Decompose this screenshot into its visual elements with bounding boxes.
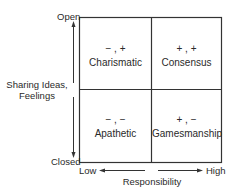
y-axis-title-line2: Feelings [3,90,71,101]
quadrant-symbol: + , + [152,43,221,54]
quadrant-symbol: + , − [152,114,221,125]
quadrant-top-right: + , + Consensus [152,43,221,69]
y-axis-top-label: Open [57,11,80,22]
x-axis-right-label: High [206,165,226,176]
quadrant-bottom-right: + , − Gamesmanship [152,114,221,140]
quadrant-label: Apathetic [80,128,151,140]
y-axis-title-line1: Sharing Ideas, [3,79,71,90]
quadrant-label: Charismatic [80,57,151,69]
quadrant-label: Consensus [152,57,221,69]
quadrant-bottom-left: − , − Apathetic [80,114,151,140]
x-axis-left-label: Low [79,165,96,176]
left-arrow-icon [99,169,105,173]
x-axis-title: Responsibility [120,176,184,187]
quadrant-top-left: − , + Charismatic [80,43,151,69]
quadrant-label: Gamesmanship [152,128,221,140]
quadrant-symbol: − , + [80,43,151,54]
right-arrow-icon [197,169,203,173]
quadrant-symbol: − , − [80,114,151,125]
y-axis-bottom-label: Closed [51,156,81,167]
